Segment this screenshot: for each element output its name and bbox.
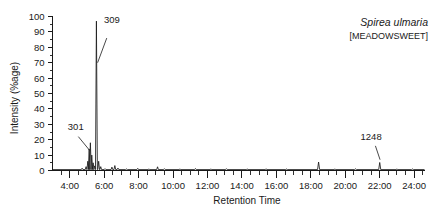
y-axis-tick-labels: 0102030405060708090100 bbox=[29, 11, 45, 176]
y-tick-label-50: 50 bbox=[34, 88, 45, 99]
x-tick-label-12: 12:00 bbox=[196, 180, 220, 191]
peak-label-301: 301 bbox=[68, 121, 84, 132]
y-tick-label-10: 10 bbox=[34, 150, 45, 161]
chromatogram-trace bbox=[53, 21, 425, 169]
peak-leader-309 bbox=[98, 38, 107, 63]
x-axis-title: Retention Time bbox=[213, 195, 281, 206]
y-tick-label-80: 80 bbox=[34, 42, 45, 53]
common-name-label: [MEADOWSWEET] bbox=[350, 31, 429, 41]
y-tick-label-70: 70 bbox=[34, 57, 45, 68]
y-tick-label-40: 40 bbox=[34, 103, 45, 114]
x-tick-label-20: 20:00 bbox=[333, 180, 357, 191]
peak-label-309: 309 bbox=[104, 14, 120, 25]
x-tick-label-16: 16:00 bbox=[264, 180, 288, 191]
x-axis-tick-labels: 4:006:008:0010:0012:0014:0016:0018:0020:… bbox=[60, 180, 426, 191]
peak-label-1248: 1248 bbox=[361, 131, 382, 142]
y-tick-label-30: 30 bbox=[34, 119, 45, 130]
y-tick-label-20: 20 bbox=[34, 134, 45, 145]
chromatogram-svg: 0102030405060708090100 4:006:008:0010:00… bbox=[0, 0, 442, 215]
x-tick-label-14: 14:00 bbox=[230, 180, 254, 191]
x-tick-label-4: 4:00 bbox=[60, 180, 79, 191]
x-tick-label-22: 22:00 bbox=[368, 180, 392, 191]
y-tick-label-60: 60 bbox=[34, 73, 45, 84]
x-tick-label-18: 18:00 bbox=[299, 180, 323, 191]
y-tick-label-90: 90 bbox=[34, 26, 45, 37]
x-tick-label-6: 6:00 bbox=[95, 180, 114, 191]
y-axis-title: Intensity (%age) bbox=[9, 62, 20, 134]
y-tick-label-100: 100 bbox=[29, 11, 45, 22]
chromatogram-figure: 0102030405060708090100 4:006:008:0010:00… bbox=[0, 0, 442, 215]
peak-leader-301 bbox=[78, 137, 89, 151]
y-tick-label-0: 0 bbox=[39, 165, 44, 176]
x-tick-label-8: 8:00 bbox=[129, 180, 148, 191]
peak-annotations: 3093011248 bbox=[68, 14, 382, 160]
x-tick-label-24: 24:00 bbox=[402, 180, 426, 191]
species-name-label: Spirea ulmaria bbox=[360, 16, 428, 28]
x-tick-label-10: 10:00 bbox=[161, 180, 185, 191]
peak-leader-1248 bbox=[375, 146, 380, 160]
